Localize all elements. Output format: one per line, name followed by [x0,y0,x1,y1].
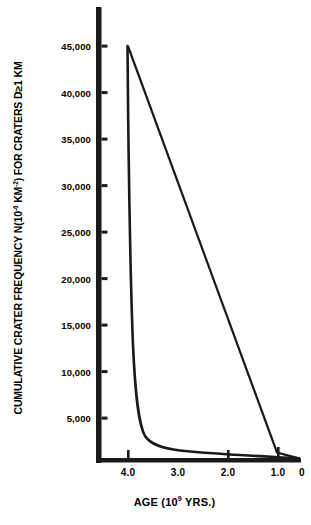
crater-frequency-curve [128,46,300,458]
x-tick-mark [127,450,130,458]
y-tick-label: 10,000 [21,366,91,377]
y-tick-mark [102,138,108,141]
x-tick-label: 3.0 [158,467,198,478]
y-tick-label: 25,000 [21,227,91,238]
reference-ray [128,47,299,458]
y-tick-label: 35,000 [21,134,91,145]
crater-frequency-chart: CUMULATIVE CRATER FREQUENCY N(10-6 KM-2)… [0,0,311,525]
y-tick-mark [102,184,108,187]
y-tick-label-group: 5,000 10,000 15,000 20,000 25,000 30,000… [19,0,91,525]
y-tick-label: 30,000 [21,180,91,191]
x-axis-title: AGE (109 YRS.) [0,496,311,508]
y-tick-label: 15,000 [21,320,91,331]
y-axis-exponent-2: -2 [11,181,18,186]
y-tick-mark [102,370,108,373]
y-tick-mark [102,417,108,420]
y-tick-label: 45,000 [21,41,91,52]
y-tick-mark [102,324,108,327]
x-tick-label: 2.0 [208,467,248,478]
y-tick-mark [102,91,108,94]
y-tick-label: 20,000 [21,273,91,284]
x-tick-label: 4.0 [108,467,148,478]
y-tick-mark [102,45,108,48]
y-tick-mark [102,231,108,234]
y-axis-spine [96,7,102,463]
x-axis-spine [96,458,301,463]
y-tick-label: 5,000 [21,413,91,424]
y-tick-label: 40,000 [21,87,91,98]
x-tick-label: 0 [282,467,311,478]
y-tick-mark [102,277,108,280]
y-axis-exponent-1: -6 [11,206,18,211]
y-tick-marks [102,45,108,420]
